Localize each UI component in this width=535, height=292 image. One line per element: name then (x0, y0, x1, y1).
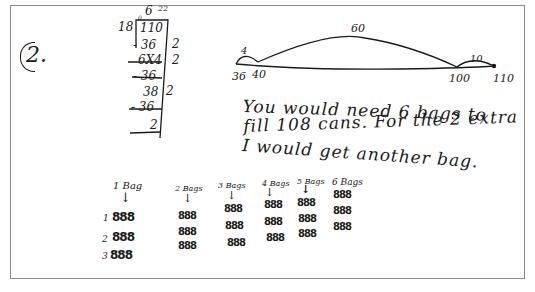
arrow-icon: ↓ (120, 190, 131, 205)
cans-group: 888 (266, 232, 284, 243)
jump-label-60: 60 (351, 22, 365, 35)
cans-group: 888 (333, 189, 351, 200)
cans-group: 888 (178, 226, 196, 237)
number-line-point-36: 36 (232, 70, 246, 83)
cans-group: 888 (227, 237, 245, 248)
cans-group: 888 (298, 228, 316, 239)
row-number-1: 1 (103, 213, 109, 223)
cans-group: 888 (112, 230, 134, 244)
arrow-icon: ↓ (301, 183, 310, 196)
cans-group: 888 (112, 210, 134, 224)
row-number-3: 3 (102, 251, 108, 261)
cans-group: 888 (224, 203, 242, 214)
cans-group: 888 (333, 205, 351, 216)
cans-group: 888 (178, 240, 196, 251)
cans-group: 888 (264, 199, 282, 210)
arrow-icon: ↓ (265, 186, 274, 199)
cans-group: 888 (297, 197, 315, 208)
cans-group: 888 (225, 220, 243, 231)
cans-group: 888 (178, 210, 196, 221)
number-line-point-40: 40 (252, 68, 266, 81)
row-number-2: 2 (102, 234, 108, 244)
jump-label-4: 4 (241, 45, 247, 56)
jump-label-10: 10 (470, 53, 483, 64)
cans-group: 888 (298, 213, 316, 224)
cans-group: 888 (264, 216, 282, 227)
cans-group: 888 (110, 248, 132, 262)
bag-label-6: 6 Bags (332, 177, 363, 187)
number-line-point-100: 100 (449, 72, 470, 85)
cans-group: 888 (333, 221, 351, 232)
number-line-point-110: 110 (493, 72, 514, 85)
arrow-icon: ↓ (227, 189, 236, 202)
arrow-icon: ↓ (183, 192, 192, 205)
